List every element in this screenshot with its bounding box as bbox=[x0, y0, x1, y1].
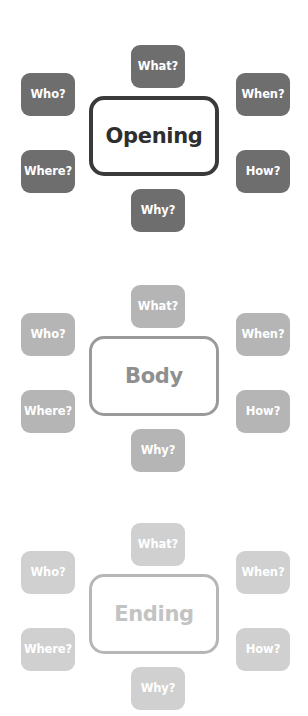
tag-label: How? bbox=[246, 406, 280, 418]
body-cluster: What?Who?When?Where?How?Why?Body bbox=[0, 240, 308, 480]
tag-label: Why? bbox=[141, 683, 176, 695]
tag-label: How? bbox=[246, 166, 280, 178]
tag-how[interactable]: How? bbox=[236, 628, 290, 671]
tag-when[interactable]: When? bbox=[236, 73, 290, 116]
tag-when[interactable]: When? bbox=[236, 551, 290, 594]
tag-label: How? bbox=[246, 644, 280, 656]
tag-when[interactable]: When? bbox=[236, 313, 290, 356]
tag-label: Where? bbox=[24, 644, 72, 656]
tag-label: What? bbox=[138, 539, 178, 551]
tag-how[interactable]: How? bbox=[236, 390, 290, 433]
center-label: Ending bbox=[114, 604, 194, 625]
tag-label: Who? bbox=[30, 89, 65, 101]
tag-label: Where? bbox=[24, 406, 72, 418]
tag-label: Who? bbox=[30, 329, 65, 341]
tag-label: When? bbox=[241, 567, 284, 579]
tag-who[interactable]: Who? bbox=[21, 551, 75, 594]
center-label: Body bbox=[125, 366, 183, 387]
tag-what[interactable]: What? bbox=[131, 523, 185, 566]
tag-where[interactable]: Where? bbox=[21, 150, 75, 193]
tag-label: When? bbox=[241, 329, 284, 341]
tag-label: What? bbox=[138, 301, 178, 313]
center-box[interactable]: Body bbox=[89, 336, 219, 416]
tag-what[interactable]: What? bbox=[131, 45, 185, 88]
center-box[interactable]: Opening bbox=[89, 96, 219, 176]
center-label: Opening bbox=[105, 126, 202, 147]
tag-label: Why? bbox=[141, 445, 176, 457]
tag-label: What? bbox=[138, 61, 178, 73]
center-box[interactable]: Ending bbox=[89, 574, 219, 654]
tag-label: Where? bbox=[24, 166, 72, 178]
opening-cluster: What?Who?When?Where?How?Why?Opening bbox=[0, 0, 308, 240]
tag-why[interactable]: Why? bbox=[131, 429, 185, 472]
tag-where[interactable]: Where? bbox=[21, 390, 75, 433]
tag-label: Who? bbox=[30, 567, 65, 579]
tag-why[interactable]: Why? bbox=[131, 667, 185, 710]
tag-why[interactable]: Why? bbox=[131, 189, 185, 232]
tag-where[interactable]: Where? bbox=[21, 628, 75, 671]
tag-how[interactable]: How? bbox=[236, 150, 290, 193]
tag-what[interactable]: What? bbox=[131, 285, 185, 328]
tag-who[interactable]: Who? bbox=[21, 313, 75, 356]
ending-cluster: What?Who?When?Where?How?Why?Ending bbox=[0, 478, 308, 716]
tag-label: When? bbox=[241, 89, 284, 101]
five-w-one-h-diagram: What?Who?When?Where?How?Why?OpeningWhat?… bbox=[0, 0, 308, 716]
tag-who[interactable]: Who? bbox=[21, 73, 75, 116]
tag-label: Why? bbox=[141, 205, 176, 217]
